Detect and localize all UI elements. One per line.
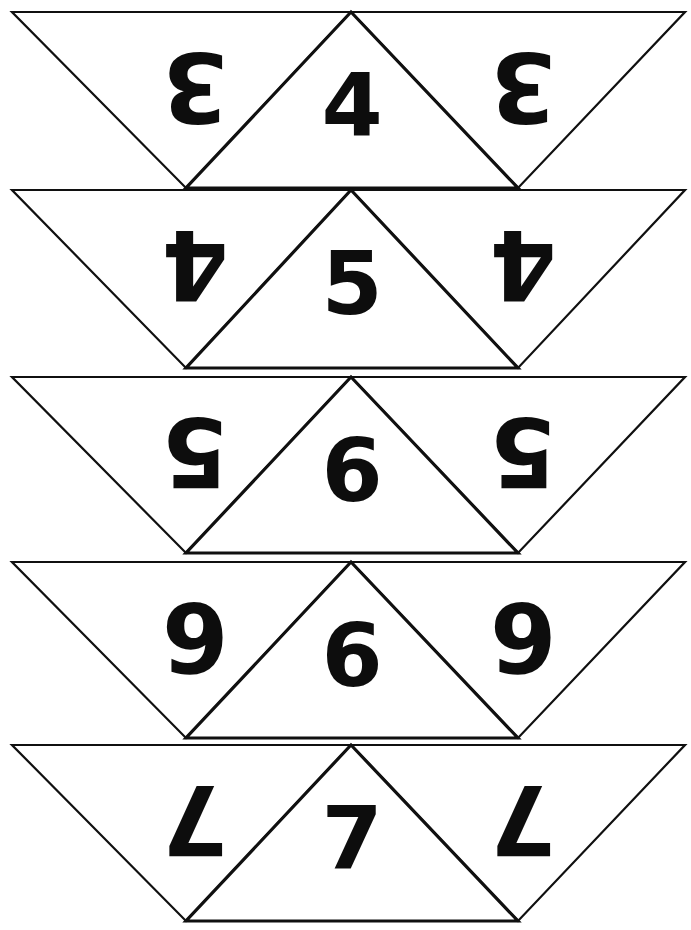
- row-5-right-digit: 7: [478, 771, 568, 867]
- row-1-left-digit: 3: [150, 38, 240, 134]
- row-5-center-digit: 7: [307, 795, 397, 883]
- row-2-right-digit: 4: [478, 216, 568, 312]
- row-1-center-digit: 4: [307, 62, 397, 150]
- flashcard-sheet: 343454565666777: [0, 0, 691, 930]
- row-3-right-digit: 5: [478, 403, 568, 499]
- row-2-center-digit: 5: [307, 240, 397, 328]
- row-4-left-digit: 6: [150, 588, 240, 684]
- row-4-center-digit: 6: [307, 612, 397, 700]
- row-3-center-digit: 6: [307, 427, 397, 515]
- row-5-left-digit: 7: [150, 771, 240, 867]
- row-2-left-digit: 4: [150, 216, 240, 312]
- row-3-left-digit: 5: [150, 403, 240, 499]
- row-4-right-digit: 6: [478, 588, 568, 684]
- row-1-right-digit: 3: [478, 38, 568, 134]
